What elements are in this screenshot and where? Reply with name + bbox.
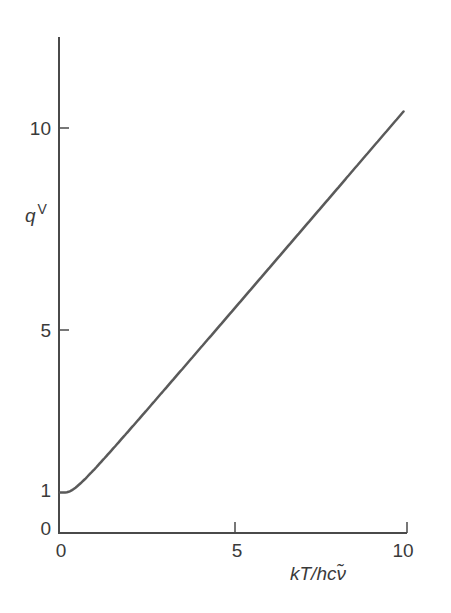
y-tick-label-5: 5 xyxy=(40,320,51,341)
x-tick-label-0: 0 xyxy=(56,540,67,561)
y-axis-label-main: q xyxy=(25,205,36,226)
y-axis-label: qV xyxy=(25,201,48,226)
x-tick-label-10: 10 xyxy=(392,540,413,561)
partition-function-chart: 10 5 1 0 0 5 10 qV kT/hcν̃ xyxy=(0,0,451,613)
x-tick-label-5: 5 xyxy=(232,540,243,561)
y-tick-label-0: 0 xyxy=(40,518,51,539)
y-tick-label-1: 1 xyxy=(40,480,51,501)
x-axis-label: kT/hcν̃ xyxy=(290,563,346,584)
data-curve xyxy=(60,112,404,493)
y-axis-label-superscript: V xyxy=(38,201,48,217)
y-tick-label-10: 10 xyxy=(30,118,51,139)
